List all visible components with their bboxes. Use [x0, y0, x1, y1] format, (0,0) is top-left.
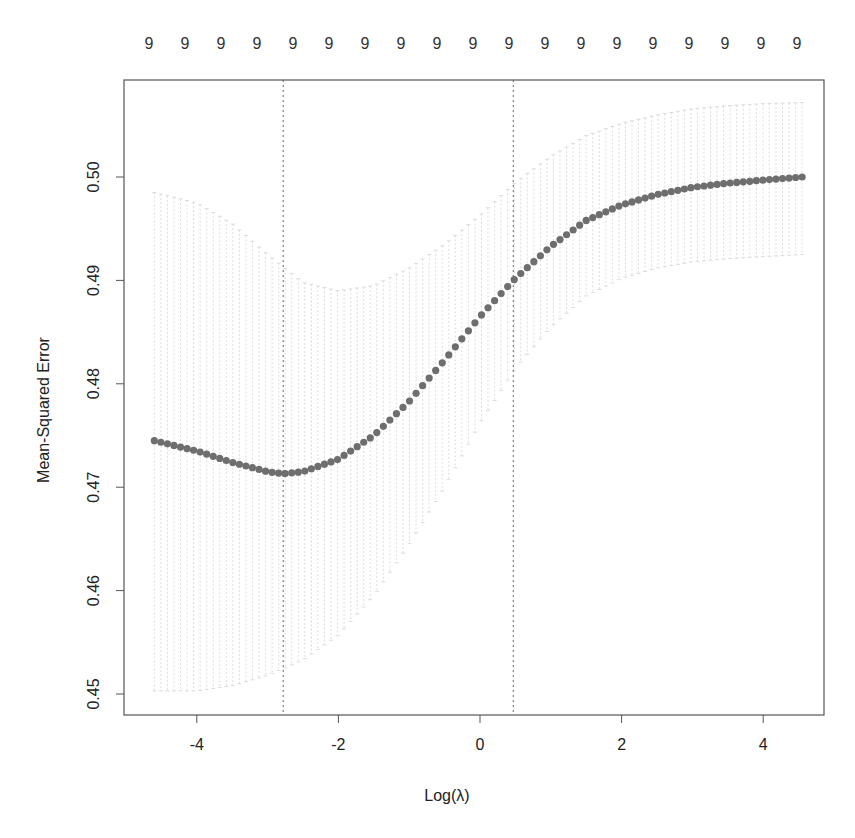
mse-point	[275, 470, 282, 477]
mse-point	[269, 469, 276, 476]
mse-point	[576, 222, 583, 229]
mse-point	[504, 283, 511, 290]
mse-point	[556, 236, 563, 243]
mse-point	[707, 182, 714, 189]
x-tick-label: 2	[617, 736, 626, 753]
cv-mse-plot: -4-2024 0.450.460.470.480.490.50 9999999…	[0, 0, 855, 838]
mse-point	[295, 469, 302, 476]
mse-point	[157, 439, 164, 446]
mse-point	[517, 270, 524, 277]
mse-point	[537, 252, 544, 259]
mse-point	[282, 470, 289, 477]
y-axis-title: Mean-Squared Error	[35, 336, 52, 483]
mse-point	[733, 179, 740, 186]
mse-point	[655, 191, 662, 198]
y-tick-label: 0.46	[85, 575, 102, 606]
mse-point	[530, 258, 537, 265]
mse-point	[236, 461, 243, 468]
top-count-label: 9	[253, 35, 262, 52]
top-count-label: 9	[361, 35, 370, 52]
mse-point	[792, 174, 799, 181]
top-count-label: 9	[289, 35, 298, 52]
mse-point	[615, 202, 622, 209]
mse-point	[550, 241, 557, 248]
mse-point	[255, 466, 262, 473]
y-tick-label: 0.49	[85, 265, 102, 296]
top-count-label: 9	[325, 35, 334, 52]
mse-point	[203, 451, 210, 458]
mse-point	[641, 194, 648, 201]
mse-point	[340, 452, 347, 459]
mse-point	[393, 410, 400, 417]
mse-point	[177, 443, 184, 450]
mse-point	[426, 374, 433, 381]
mse-point	[183, 445, 190, 452]
top-count-label: 9	[397, 35, 406, 52]
top-count-label: 9	[649, 35, 658, 52]
top-count-label: 9	[793, 35, 802, 52]
mse-point	[458, 335, 465, 342]
top-count-label: 9	[505, 35, 514, 52]
mse-point	[753, 177, 760, 184]
mse-point	[412, 390, 419, 397]
mse-point	[373, 429, 380, 436]
mse-point	[242, 462, 249, 469]
mse-point	[779, 175, 786, 182]
mse-point	[740, 178, 747, 185]
mse-point	[766, 176, 773, 183]
mse-point	[563, 231, 570, 238]
top-count-label: 9	[721, 35, 730, 52]
mse-point	[386, 416, 393, 423]
mse-point	[223, 457, 230, 464]
mse-point	[419, 382, 426, 389]
mse-point	[661, 189, 668, 196]
mse-point	[589, 214, 596, 221]
y-axis: 0.450.460.470.480.490.50	[85, 161, 124, 709]
mse-point	[785, 174, 792, 181]
top-count-label: 9	[217, 35, 226, 52]
mse-point	[720, 180, 727, 187]
mse-point	[367, 434, 374, 441]
mse-point	[799, 173, 806, 180]
mse-point	[648, 193, 655, 200]
mse-point	[727, 179, 734, 186]
mse-point	[439, 359, 446, 366]
mse-point	[170, 442, 177, 449]
mse-point	[445, 351, 452, 358]
y-tick-label: 0.45	[85, 678, 102, 709]
x-tick-label: 0	[476, 736, 485, 753]
mse-point	[432, 367, 439, 374]
mse-point	[399, 404, 406, 411]
mse-point	[694, 183, 701, 190]
x-axis: -4-2024	[190, 715, 768, 753]
top-axis-nonzero-counts: 9999999999999999999	[145, 35, 802, 52]
mse-point	[609, 205, 616, 212]
mse-point	[380, 423, 387, 430]
top-count-label: 9	[469, 35, 478, 52]
top-count-label: 9	[181, 35, 190, 52]
mse-point	[478, 311, 485, 318]
top-count-label: 9	[757, 35, 766, 52]
mse-point	[700, 182, 707, 189]
mse-point	[635, 196, 642, 203]
mse-point	[301, 467, 308, 474]
mse-point	[354, 443, 361, 450]
plot-frame	[124, 80, 824, 715]
mse-point	[327, 458, 334, 465]
top-count-label: 9	[577, 35, 586, 52]
mse-point	[628, 198, 635, 205]
top-count-label: 9	[433, 35, 442, 52]
mse-point	[583, 217, 590, 224]
mse-point	[321, 461, 328, 468]
mse-point	[262, 468, 269, 475]
mse-point	[347, 447, 354, 454]
mse-point	[622, 200, 629, 207]
mse-point	[151, 437, 158, 444]
mse-point	[164, 440, 171, 447]
mse-point	[190, 447, 197, 454]
mse-point	[210, 453, 217, 460]
mse-point	[596, 211, 603, 218]
mse-points	[151, 173, 806, 477]
x-tick-label: -2	[331, 736, 345, 753]
mse-point	[668, 188, 675, 195]
